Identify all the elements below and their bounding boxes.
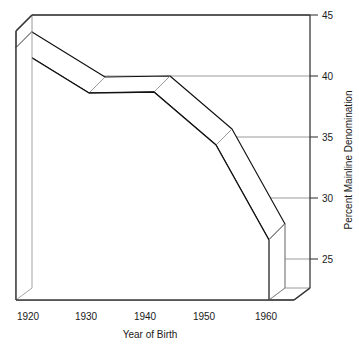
y-tick-label-40: 40 [322, 71, 334, 82]
y-axis: 45 40 35 30 25 Percent Mainline Denomina… [310, 10, 354, 265]
x-tick-label-1950: 1950 [193, 311, 216, 322]
ribbon-left-endcap [16, 32, 32, 300]
y-tick-label-35: 35 [322, 132, 334, 143]
x-tick-label-1930: 1930 [75, 311, 98, 322]
ribbon-chart: 45 40 35 30 25 Percent Mainline Denomina… [0, 0, 359, 347]
x-tick-label-1940: 1940 [134, 311, 157, 322]
chart-page: 45 40 35 30 25 Percent Mainline Denomina… [0, 0, 359, 347]
y-tick-label-45: 45 [322, 10, 334, 21]
x-tick-label-1920: 1920 [17, 311, 40, 322]
x-tick-label-1960: 1960 [255, 311, 278, 322]
y-axis-title: Percent Mainline Denomination [343, 91, 354, 230]
y-tick-label-30: 30 [322, 193, 334, 204]
x-axis: 1920 1930 1940 1950 1960 Year of Birth [17, 311, 278, 340]
x-axis-title: Year of Birth [123, 329, 178, 340]
y-tick-label-25: 25 [322, 254, 334, 265]
